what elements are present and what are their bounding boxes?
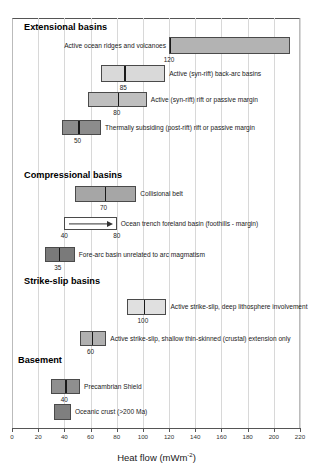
range-arrow-head-icon xyxy=(107,221,113,227)
x-axis-tick xyxy=(169,428,170,432)
gridline xyxy=(38,18,39,428)
typical-value-marker xyxy=(144,300,145,314)
x-axis-tick xyxy=(91,428,92,432)
bar-category-label: Ocean trench foreland basin (foothills -… xyxy=(121,220,308,228)
range-bar xyxy=(54,404,71,420)
x-axis-tick xyxy=(117,428,118,432)
range-bar xyxy=(64,217,116,230)
range-arrow-line xyxy=(69,223,106,224)
x-axis-tick-label: 160 xyxy=(216,433,226,440)
range-bar xyxy=(75,186,137,202)
range-bar xyxy=(80,331,106,346)
x-axis-tick xyxy=(143,428,144,432)
x-axis-tick-label: 60 xyxy=(87,433,94,440)
x-axis-tick xyxy=(64,428,65,432)
bar-category-label: Oceanic crust (>200 Ma) xyxy=(75,408,308,416)
x-axis-tick-label: 0 xyxy=(10,433,13,440)
bar-category-label: Collisional belt xyxy=(140,190,308,198)
x-axis-tick-label: 180 xyxy=(242,433,252,440)
group-heading: Compressional basins xyxy=(24,170,122,180)
group-heading: Extensional basins xyxy=(24,22,107,32)
x-axis-tick xyxy=(195,428,196,432)
range-bar xyxy=(62,120,101,135)
typical-value-marker xyxy=(118,93,119,106)
bar-category-label: Fore-arc basin unrelated to arc magmatis… xyxy=(79,251,308,259)
typical-value-marker xyxy=(59,248,60,261)
bar-category-label: Active ocean ridges and volcanoes xyxy=(64,42,166,50)
range-bar xyxy=(88,92,147,107)
range-bar xyxy=(127,299,166,315)
x-axis-tick-label: 100 xyxy=(138,433,148,440)
x-axis-tick-label: 80 xyxy=(113,433,120,440)
x-axis-tick xyxy=(38,428,39,432)
bar-category-label: Thermally subsiding (post-rift) rift or … xyxy=(105,124,308,132)
x-axis-tick-label: 200 xyxy=(269,433,279,440)
bar-value-label: 50 xyxy=(74,137,81,144)
x-axis-tick xyxy=(221,428,222,432)
bar-value-label: 40 xyxy=(61,396,68,403)
typical-value-marker xyxy=(78,121,79,134)
bar-value-label: 35 xyxy=(54,264,61,271)
typical-value-marker xyxy=(124,66,125,81)
x-axis-tick-label: 20 xyxy=(35,433,42,440)
x-axis-title: Heat flow (mWm-2) xyxy=(0,452,313,463)
bar-value-label: 120 xyxy=(164,56,175,63)
x-axis-tick-label: 40 xyxy=(61,433,68,440)
typical-value-marker xyxy=(170,38,171,53)
typical-value-marker xyxy=(92,332,93,345)
x-axis-tick xyxy=(300,428,301,432)
group-heading: Basement xyxy=(18,355,62,365)
x-axis-tick-label: 120 xyxy=(164,433,174,440)
bar-category-label: Active (syn-rift) back-arc basins xyxy=(169,70,308,78)
bar-value-label: 100 xyxy=(138,317,149,324)
range-bar xyxy=(45,247,75,262)
bar-category-label: Active strike-slip, shallow thin-skinned… xyxy=(110,335,308,343)
bar-category-label: Active (syn-rift) rift or passive margin xyxy=(151,96,308,104)
group-heading: Strike-slip basins xyxy=(24,276,100,286)
x-axis-tick-label: 140 xyxy=(190,433,200,440)
bar-category-label: Precambrian Shield xyxy=(84,383,308,391)
bar-value-label: 70 xyxy=(100,204,107,211)
x-axis-tick xyxy=(12,428,13,432)
bar-value-label: 85 xyxy=(120,84,127,91)
bar-value-label: 60 xyxy=(87,348,94,355)
range-bar xyxy=(101,65,165,82)
heat-flow-chart: 120Active ocean ridges and volcanoes85Ac… xyxy=(0,0,313,476)
range-bar xyxy=(169,37,289,54)
bar-category-label: Active strike-slip, deep lithosphere inv… xyxy=(170,303,308,311)
range-bar xyxy=(51,379,80,394)
x-axis-tick-label: 220 xyxy=(295,433,305,440)
typical-value-marker xyxy=(65,380,66,393)
typical-value-marker xyxy=(105,187,106,201)
x-axis-title-text: Heat flow (mWm xyxy=(117,452,187,463)
bar-value-label: 80 xyxy=(113,109,120,116)
x-axis-tick xyxy=(274,428,275,432)
x-axis-tick xyxy=(248,428,249,432)
bar-value-label: 40 xyxy=(61,232,68,239)
bar-value-label: 80 xyxy=(113,232,120,239)
x-axis-line xyxy=(12,428,300,429)
x-axis-title-tail: ) xyxy=(193,452,196,463)
